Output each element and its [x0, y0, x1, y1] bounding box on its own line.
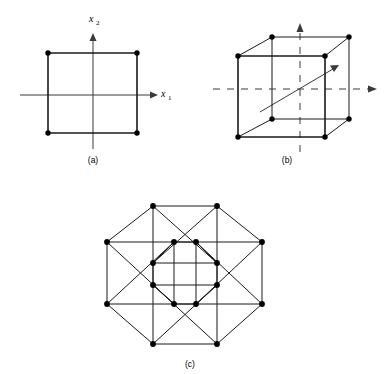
- panel-c-outer-vertex: [150, 203, 156, 209]
- panel-a-vertex: [45, 130, 50, 135]
- panel-a-x1-arrowhead: [150, 92, 158, 99]
- panel-b-edge-connect-tl: [238, 37, 272, 56]
- panel-a-caption: (a): [88, 155, 99, 165]
- panel-c-inner-vertex: [171, 301, 177, 307]
- panel-c-outer-vertex: [259, 239, 265, 245]
- panel-a-x2-label: x: [88, 13, 94, 24]
- panel-c-tesseract: (c): [104, 203, 265, 369]
- panel-c-outer-edge: [107, 206, 153, 242]
- panel-c-outer-vertex: [104, 239, 110, 245]
- panel-b-x1-arrowhead: [368, 86, 377, 93]
- panel-b-vertex: [269, 116, 274, 121]
- panel-c-outer-vertex: [214, 203, 220, 209]
- panel-a-vertex: [45, 50, 50, 55]
- panel-b-vertex: [235, 134, 240, 139]
- panel-a-x2-arrowhead: [90, 33, 97, 41]
- panel-b-x3-arrowhead: [330, 65, 339, 72]
- panel-c-inner-vertex: [214, 260, 220, 266]
- panel-a-x2-subscript: 2: [96, 19, 100, 27]
- panel-c-outer-edge: [217, 206, 262, 242]
- panel-c-outer-vertex: [259, 301, 265, 307]
- panel-b-cube: (b): [213, 23, 377, 165]
- panel-c-inner-vertex: [193, 239, 199, 245]
- panel-c-outer-edge: [217, 304, 262, 344]
- panel-a-vertex: [134, 50, 139, 55]
- panel-b-vertex: [346, 116, 351, 121]
- hypercube-figure-svg: x 1 x 2 (a): [0, 0, 390, 374]
- panel-b-edge-connect-bl: [238, 119, 272, 137]
- panel-c-inner-vertex: [193, 301, 199, 307]
- panel-b-vertex: [322, 134, 327, 139]
- figure-root: x 1 x 2 (a): [0, 0, 390, 374]
- panel-c-outer-vertex: [104, 301, 110, 307]
- panel-a-square: x 1 x 2 (a): [20, 13, 172, 165]
- panel-b-x2-arrowhead: [297, 23, 304, 32]
- panel-c-inner-vertex: [214, 282, 220, 288]
- panel-a-x1-label: x: [160, 88, 166, 99]
- panel-b-vertex: [269, 34, 274, 39]
- panel-b-edge-connect-tr: [325, 37, 349, 56]
- panel-c-inner-vertex: [150, 260, 156, 266]
- panel-b-caption: (b): [282, 155, 293, 165]
- panel-b-vertex: [322, 53, 327, 58]
- panel-c-caption: (c): [185, 359, 195, 369]
- panel-c-outer-edge: [107, 304, 153, 344]
- panel-c-inner-vertex: [150, 282, 156, 288]
- panel-a-x1-subscript: 1: [168, 94, 172, 102]
- panel-c-inner-vertex: [171, 239, 177, 245]
- panel-b-vertex: [346, 34, 351, 39]
- panel-b-x3-axis: [260, 69, 333, 112]
- panel-b-vertex: [235, 53, 240, 58]
- panel-c-outer-vertex: [150, 341, 156, 347]
- panel-c-outer-vertex: [214, 341, 220, 347]
- panel-a-vertex: [134, 130, 139, 135]
- panel-b-edge-connect-br: [325, 119, 349, 137]
